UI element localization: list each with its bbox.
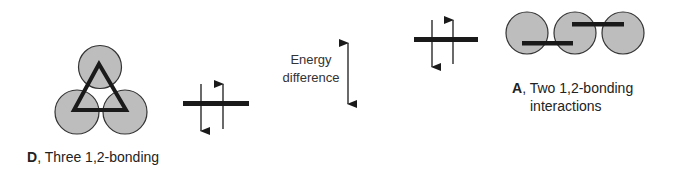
caption-d-text: , Three 1,2-bonding — [37, 149, 159, 165]
caption-a-letter: A — [512, 80, 522, 96]
orbital-bar — [183, 101, 249, 106]
energy-level-d — [183, 84, 249, 131]
lobe-right — [602, 12, 644, 54]
lobe-middle — [554, 12, 596, 54]
energy-level-a — [414, 20, 478, 67]
caption-a-line2: interactions — [530, 98, 602, 115]
structure-d-lobes — [55, 46, 147, 135]
lobe-left — [506, 12, 548, 54]
caption-a: A, Two 1,2-bonding — [512, 80, 633, 97]
energy-label-line1: Energy — [272, 51, 350, 69]
orbital-bar — [414, 37, 478, 42]
energy-label-line2: difference — [272, 69, 350, 87]
caption-d-letter: D — [27, 149, 37, 165]
energy-difference-label: Energy difference — [272, 51, 350, 87]
bond-bar-upper — [572, 22, 624, 27]
structure-a-lobes — [506, 12, 644, 54]
caption-a-line1: , Two 1,2-bonding — [522, 80, 633, 96]
caption-d: D, Three 1,2-bonding — [27, 149, 159, 166]
bond-bar-lower — [522, 41, 573, 46]
